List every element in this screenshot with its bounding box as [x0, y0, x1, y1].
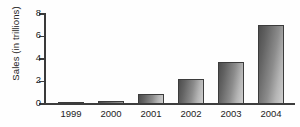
bar-2003 — [218, 62, 244, 104]
bar-2000 — [98, 101, 124, 104]
x-tick-label-2000: 2000 — [91, 108, 131, 119]
bar-1999 — [58, 102, 84, 104]
bar-2001 — [138, 94, 164, 104]
x-tick-label-2001: 2001 — [131, 108, 171, 119]
y-tick-label: 2 — [36, 74, 41, 86]
x-tick-label-2003: 2003 — [211, 108, 251, 119]
y-tick-label: 4 — [36, 52, 41, 64]
y-axis-title: Sales (in trillions) — [10, 0, 21, 99]
bar-chart-figure: Sales (in trillions) 0 2 4 6 8 — [0, 0, 300, 127]
x-tick-label-1999: 1999 — [51, 108, 91, 119]
y-tick-label: 8 — [36, 7, 41, 19]
bar-2002 — [178, 79, 204, 104]
plot-area: 0 2 4 6 8 1999 2000 2001 2002 2003 20 — [44, 13, 295, 104]
y-tick-label: 0 — [36, 97, 41, 109]
x-tick-label-2002: 2002 — [171, 108, 211, 119]
bar-2004 — [258, 25, 284, 104]
y-tick-label: 6 — [36, 29, 41, 41]
x-tick-label-2004: 2004 — [251, 108, 291, 119]
